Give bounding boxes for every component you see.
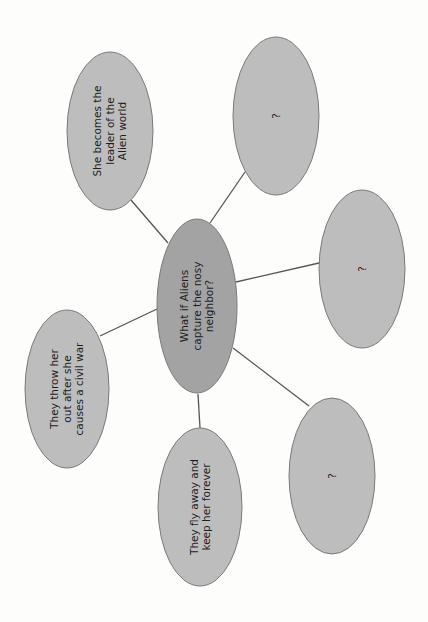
connector-bottom [198,394,200,428]
node-label-top-right: ? [238,47,314,185]
node-label-left: They throw her out after she causes a ci… [30,320,104,458]
connector-right [236,263,319,282]
connector-bottom-right [233,348,309,406]
node-label-bottom-right: ? [294,408,370,544]
connector-left [100,309,157,336]
node-label-top-left: She becomes the leader of the Alien worl… [72,62,148,200]
node-label-bottom: They fly away and keep her forever [163,438,237,576]
node-label-right: ? [324,200,400,338]
center-node-label: What if Aliens capture the nosy neighbor… [162,229,232,383]
